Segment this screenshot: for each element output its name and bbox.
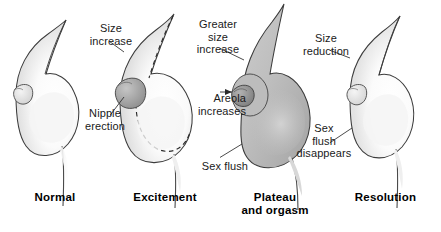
annotation-areola-increases: Areola increases bbox=[158, 92, 246, 117]
torso-shadow-normal bbox=[60, 146, 69, 186]
stage-label-plateau-and-orgasm: Plateau and orgasm bbox=[220, 191, 330, 217]
annotation-sex-flush-disappears: Sex flush disappears bbox=[276, 122, 372, 160]
panel-resolution: Size reduction Sex flush disappears Reso… bbox=[330, 0, 441, 232]
torso-shadow-resolution bbox=[394, 149, 403, 189]
breast-sexual-response-diagram: Normal bbox=[0, 0, 441, 232]
nipple-resolution bbox=[347, 84, 367, 104]
annotation-greater-size-increase: Greater size increase bbox=[172, 18, 264, 56]
annotation-nipple-erection: Nipple erection bbox=[58, 107, 152, 132]
stage-label-excitement: Excitement bbox=[110, 191, 220, 204]
torso-shadow-plateau bbox=[288, 156, 302, 196]
nipple-normal bbox=[14, 84, 33, 104]
annotation-size-reduction: Size reduction bbox=[280, 32, 372, 57]
stage-label-resolution: Resolution bbox=[330, 191, 441, 204]
annotation-size-increase: Size increase bbox=[64, 22, 158, 47]
nipple-erection-excitement bbox=[115, 78, 145, 108]
stage-label-normal: Normal bbox=[0, 191, 110, 204]
annotation-sex-flush: Sex flush bbox=[164, 160, 248, 173]
